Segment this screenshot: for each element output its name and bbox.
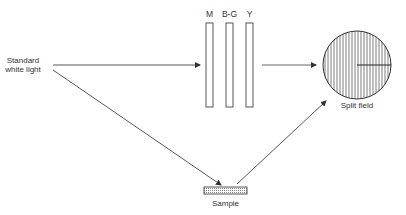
source-label-line2: white light	[4, 65, 41, 74]
filter-bg: B-G	[222, 9, 237, 107]
sample-label: Sample	[212, 199, 240, 208]
reflected-beam-arrow	[237, 101, 326, 184]
filter-y-plate	[246, 23, 253, 107]
filter-bg-label: B-G	[222, 9, 237, 19]
source-label-line1: Standard	[7, 56, 39, 65]
split-field-diagram: Standard white light M B-G Y Split field…	[0, 0, 406, 215]
split-field: Split field	[323, 31, 391, 110]
sample-plate	[204, 187, 247, 194]
beam-to-sample-arrow	[53, 70, 221, 185]
filter-m-label: M	[206, 9, 213, 19]
filter-m-plate	[206, 23, 213, 107]
light-source-label: Standard white light	[4, 56, 41, 74]
sample: Sample	[204, 187, 247, 208]
filter-bg-plate	[226, 23, 233, 107]
filter-m: M	[206, 9, 213, 107]
filter-y: Y	[246, 9, 253, 107]
filter-y-label: Y	[247, 9, 253, 19]
split-field-label: Split field	[341, 101, 373, 110]
